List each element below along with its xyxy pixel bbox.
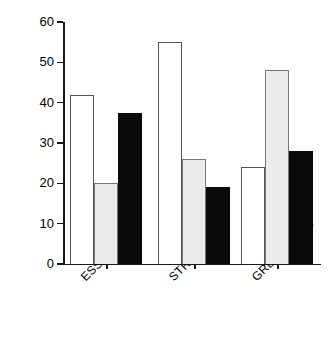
bar-stratford-series-2-gray [182,159,206,264]
y-tick-label-30: 30 [14,135,54,150]
bar-stratford-series-1-open [158,42,182,264]
y-tick-label-40: 40 [14,95,54,110]
bar-stratford-series-3-black [206,187,230,264]
bar-grey-bruce-series-1-open [241,167,265,264]
y-tick-label-0: 0 [14,256,54,271]
bar-essex-series-3-black [118,113,142,264]
y-tick-label-20: 20 [14,175,54,190]
y-tick-label-60: 60 [14,14,54,29]
bar-grey-bruce-series-3-black [289,151,313,264]
plot-area [63,22,321,264]
y-tick-label-50: 50 [14,54,54,69]
bar-essex-series-2-gray [94,183,118,264]
bar-essex-series-1-open [70,95,94,264]
bar-chart-figure: FREQUENCY (%) 0102030405060 ESSEXSTRATFO… [0,0,333,347]
bar-grey-bruce-series-2-gray [265,70,289,264]
y-tick-label-10: 10 [14,216,54,231]
